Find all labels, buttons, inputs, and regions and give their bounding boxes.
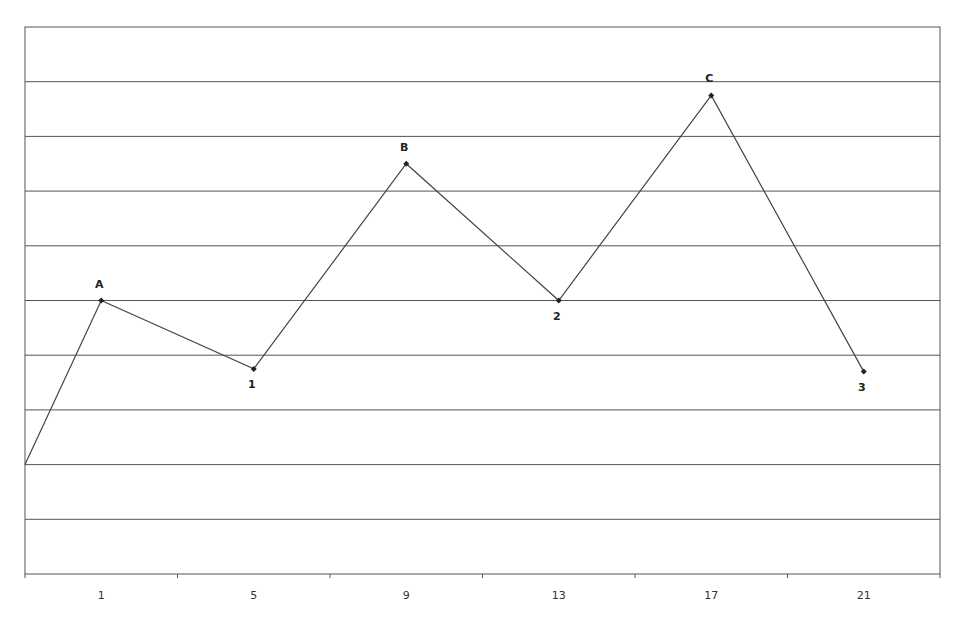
x-axis: 159131721 — [25, 574, 940, 602]
x-tick-label: 21 — [857, 589, 871, 602]
series-line — [25, 95, 864, 464]
data-point-label: 1 — [248, 378, 256, 391]
point-labels: A1B2C3 — [95, 72, 866, 393]
x-tick-label: 1 — [98, 589, 105, 602]
data-point-label: B — [400, 141, 408, 154]
data-point-label: C — [705, 72, 713, 85]
data-point-marker — [98, 298, 104, 304]
x-tick-label: 9 — [403, 589, 410, 602]
data-series — [25, 92, 867, 464]
data-point-label: 3 — [858, 381, 866, 394]
x-tick-label: 5 — [250, 589, 257, 602]
data-point-label: 2 — [553, 310, 561, 323]
x-tick-label: 17 — [704, 589, 718, 602]
data-point-label: A — [95, 278, 104, 291]
line-chart: 159131721 A1B2C3 — [0, 0, 962, 622]
x-tick-label: 13 — [552, 589, 566, 602]
gridlines — [25, 82, 940, 520]
data-point-marker — [861, 369, 867, 375]
